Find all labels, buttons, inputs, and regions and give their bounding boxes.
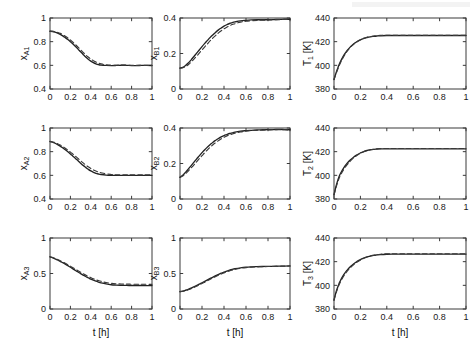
- x-tick-label: 0.6: [240, 312, 253, 322]
- panel-T2: 00.20.40.60.81380400420440T2 [K]: [302, 123, 469, 212]
- y-tick-label: 440: [315, 123, 330, 133]
- y-tick-label: 0: [41, 304, 46, 314]
- x-tick-label: 0.2: [196, 312, 209, 322]
- x-tick-label: 0.4: [85, 312, 98, 322]
- y-tick-label: 380: [315, 304, 330, 314]
- x-tick-label: 0.2: [64, 202, 77, 212]
- x-tick-label: 0: [331, 202, 336, 212]
- x-tick-label: 1: [149, 202, 154, 212]
- y-tick-label: 0: [171, 304, 176, 314]
- x-axis-label: t [h]: [227, 327, 244, 338]
- x-tick-label: 0.2: [354, 202, 367, 212]
- figure-canvas: 00.20.40.60.810.40.60.81xA100.20.40.60.8…: [0, 0, 476, 344]
- x-tick-label: 0.4: [381, 312, 394, 322]
- x-tick-label: 0: [331, 92, 336, 102]
- y-tick-label: 420: [315, 257, 330, 267]
- panel-T3: 00.20.40.60.81380400420440T3 [K]t [h]: [302, 233, 469, 338]
- y-tick-label: 0: [171, 194, 176, 204]
- x-tick-label: 0: [331, 312, 336, 322]
- y-tick-label: 420: [315, 37, 330, 47]
- x-tick-label: 0.6: [240, 92, 253, 102]
- scan-artifact: [352, 2, 470, 7]
- x-tick-label: 0.8: [433, 202, 446, 212]
- y-tick-label: 0.2: [163, 49, 176, 59]
- x-tick-label: 0.6: [105, 92, 118, 102]
- y-tick-label: 0.8: [33, 147, 46, 157]
- y-tick-label: 1: [41, 123, 46, 133]
- panel-xA2: 00.20.40.60.810.40.60.81xA2: [18, 123, 155, 212]
- x-tick-label: 0: [177, 312, 182, 322]
- y-tick-label: 420: [315, 147, 330, 157]
- y-tick-label: 0.4: [163, 123, 176, 133]
- y-tick-label: 380: [315, 194, 330, 204]
- x-tick-label: 0.6: [240, 202, 253, 212]
- y-tick-label: 1: [171, 233, 176, 243]
- x-tick-label: 0.4: [85, 202, 98, 212]
- x-tick-label: 0.6: [105, 312, 118, 322]
- y-axis-label: xA2: [18, 157, 31, 171]
- y-tick-label: 0.4: [33, 84, 46, 94]
- y-tick-label: 0.5: [33, 269, 46, 279]
- x-tick-label: 0.2: [196, 202, 209, 212]
- x-tick-label: 1: [463, 312, 468, 322]
- panel-xA1: 00.20.40.60.810.40.60.81xA1: [18, 13, 155, 102]
- y-tick-label: 440: [315, 233, 330, 243]
- y-tick-label: 0.8: [33, 37, 46, 47]
- y-tick-label: 0.4: [163, 13, 176, 23]
- y-tick-label: 0.5: [163, 269, 176, 279]
- x-tick-label: 0: [177, 92, 182, 102]
- panel-T1: 00.20.40.60.81380400420440T1 [K]: [302, 13, 469, 102]
- x-tick-label: 0: [47, 92, 52, 102]
- x-tick-label: 0.2: [354, 92, 367, 102]
- y-tick-label: 380: [315, 84, 330, 94]
- y-tick-label: 400: [315, 61, 330, 71]
- x-tick-label: 0.2: [354, 312, 367, 322]
- x-tick-label: 0.8: [262, 92, 275, 102]
- x-tick-label: 1: [149, 312, 154, 322]
- x-tick-label: 0.8: [262, 202, 275, 212]
- x-axis-label: t [h]: [392, 327, 409, 338]
- y-tick-label: 0.2: [163, 159, 176, 169]
- x-tick-label: 1: [287, 202, 292, 212]
- panel-xB1: 00.20.40.60.8100.20.4xB1: [148, 13, 293, 102]
- x-tick-label: 1: [463, 92, 468, 102]
- y-tick-label: 1: [41, 233, 46, 243]
- y-axis-label: T2 [K]: [302, 151, 315, 176]
- x-tick-label: 0.2: [64, 92, 77, 102]
- x-tick-label: 0.4: [381, 92, 394, 102]
- x-axis-label: t [h]: [93, 327, 110, 338]
- x-tick-label: 0.4: [85, 92, 98, 102]
- x-tick-label: 1: [287, 92, 292, 102]
- x-tick-label: 0.6: [407, 92, 420, 102]
- x-tick-label: 0.6: [105, 202, 118, 212]
- x-tick-label: 1: [463, 202, 468, 212]
- x-tick-label: 0: [47, 202, 52, 212]
- x-tick-label: 0.8: [125, 92, 138, 102]
- x-tick-label: 0: [47, 312, 52, 322]
- x-tick-label: 0.6: [407, 312, 420, 322]
- x-tick-label: 0.4: [218, 202, 231, 212]
- x-tick-label: 0.2: [64, 312, 77, 322]
- y-tick-label: 0.4: [33, 194, 46, 204]
- panel-xB3: 00.20.40.60.8100.51xB3t [h]: [148, 233, 293, 338]
- y-axis-label: xA3: [18, 267, 31, 281]
- x-tick-label: 1: [287, 312, 292, 322]
- y-axis-label: T3 [K]: [302, 261, 315, 286]
- x-tick-label: 0.8: [262, 312, 275, 322]
- x-tick-label: 0.2: [196, 92, 209, 102]
- x-tick-label: 0: [177, 202, 182, 212]
- x-tick-label: 0.4: [218, 312, 231, 322]
- y-tick-label: 0: [171, 84, 176, 94]
- x-tick-label: 0.4: [381, 202, 394, 212]
- x-tick-label: 1: [149, 92, 154, 102]
- y-tick-label: 0.6: [33, 171, 46, 181]
- y-tick-label: 440: [315, 13, 330, 23]
- x-tick-label: 0.6: [407, 202, 420, 212]
- y-tick-label: 400: [315, 281, 330, 291]
- x-tick-label: 0.8: [125, 202, 138, 212]
- y-tick-label: 400: [315, 171, 330, 181]
- panel-xB2: 00.20.40.60.8100.20.4xB2: [148, 123, 293, 212]
- y-tick-label: 1: [41, 13, 46, 23]
- x-tick-label: 0.8: [433, 92, 446, 102]
- x-tick-label: 0.8: [433, 312, 446, 322]
